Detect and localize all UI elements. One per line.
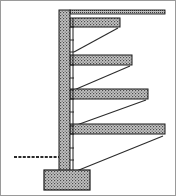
roof-slab xyxy=(70,10,165,14)
figure-root xyxy=(0,0,176,196)
vertical-column xyxy=(59,10,70,178)
cantilever-structure-svg xyxy=(0,0,176,196)
base-footing xyxy=(44,170,90,190)
